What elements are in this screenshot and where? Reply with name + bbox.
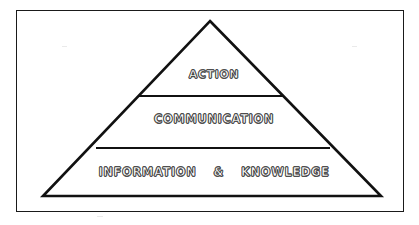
tier-label-action: ACTION [9,69,419,80]
tier-label-information-knowledge: INFORMATION&KNOWLEDGE [9,167,419,179]
tier-label-ampersand: & [196,167,241,179]
scan-artifact [62,46,67,47]
tier-label-information: INFORMATION [98,165,196,179]
tier-label-knowledge: KNOWLEDGE [241,165,329,179]
diagram-canvas: ACTION COMMUNICATION INFORMATION&KNOWLED… [0,0,419,225]
tier-label-communication: COMMUNICATION [9,114,419,126]
scan-artifact [97,216,103,217]
scan-artifact [352,46,357,47]
